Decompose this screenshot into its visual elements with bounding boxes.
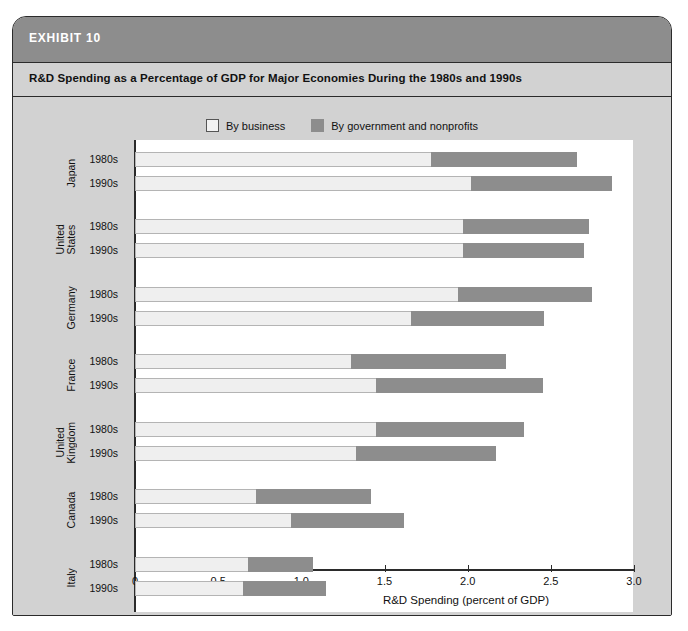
bar-segment-government (248, 557, 313, 572)
bar-row (135, 557, 313, 572)
bar-segment-government (256, 489, 371, 504)
bar-row (135, 311, 544, 326)
period-label: 1980s (89, 558, 118, 570)
x-axis-tick (634, 565, 635, 572)
bar-segment-business (135, 152, 431, 167)
bar-row (135, 422, 524, 437)
bar-row (135, 378, 543, 393)
country-label: Germany (66, 281, 77, 334)
bar-row (135, 243, 584, 258)
exhibit-header-bar: EXHIBIT 10 (13, 17, 671, 63)
bar-segment-government (471, 176, 612, 191)
x-axis-tick-label: 1.5 (377, 575, 392, 587)
bar-row (135, 489, 371, 504)
x-axis-tick (385, 565, 386, 572)
bar-segment-business (135, 176, 471, 191)
period-label: 1980s (89, 423, 118, 435)
bar-row (135, 219, 589, 234)
x-axis-tick-label: 3.0 (626, 575, 641, 587)
x-axis-tick (551, 565, 552, 572)
bar-row (135, 354, 506, 369)
legend-swatch-by-government-and-nonprofits (311, 119, 324, 132)
period-label: 1980s (89, 288, 118, 300)
bar-segment-government (356, 446, 496, 461)
bar-segment-business (135, 354, 351, 369)
period-label: 1990s (89, 582, 118, 594)
period-label: 1980s (89, 220, 118, 232)
exhibit-subtitle-bar: R&D Spending as a Percentage of GDP for … (13, 63, 671, 97)
bar-segment-business (135, 446, 356, 461)
bar-segment-government (376, 378, 542, 393)
period-label: 1990s (89, 447, 118, 459)
exhibit-page: EXHIBIT 10 R&D Spending as a Percentage … (0, 0, 688, 631)
bar-segment-business (135, 311, 411, 326)
bar-segment-business (135, 422, 376, 437)
period-label: 1980s (89, 153, 118, 165)
x-axis-tick-label: 2.5 (543, 575, 558, 587)
x-axis-tick-label: 2.0 (460, 575, 475, 587)
country-label: United Kingdom (55, 416, 77, 469)
bar-segment-government (376, 422, 524, 437)
bar-segment-business (135, 243, 463, 258)
bar-segment-government (463, 219, 589, 234)
bar-segment-government (351, 354, 506, 369)
country-label: Canada (66, 483, 77, 536)
exhibit-number-label: EXHIBIT 10 (29, 31, 101, 45)
plot-background (134, 140, 633, 612)
period-label: 1990s (89, 244, 118, 256)
bar-segment-government (411, 311, 544, 326)
legend-label-by-business: By business (226, 120, 285, 132)
bar-segment-business (135, 378, 376, 393)
chart-area: By business By government and nonprofits… (13, 97, 671, 616)
legend-item-by-government-and-nonprofits: By government and nonprofits (311, 119, 478, 132)
y-axis-line (134, 140, 136, 612)
period-label: 1990s (89, 177, 118, 189)
country-label: United States (55, 213, 77, 266)
x-axis-title-text: R&D Spending (percent of GDP) (383, 594, 549, 606)
bar-segment-government (458, 287, 593, 302)
bar-segment-government (291, 513, 404, 528)
bar-row (135, 176, 612, 191)
period-label: 1980s (89, 490, 118, 502)
bar-segment-business (135, 219, 463, 234)
period-label: 1990s (89, 312, 118, 324)
bar-segment-business (135, 489, 256, 504)
bar-row (135, 446, 496, 461)
bar-segment-business (135, 513, 291, 528)
x-axis-tick (468, 565, 469, 572)
bar-row (135, 513, 404, 528)
legend-label-by-government-and-nonprofits: By government and nonprofits (331, 120, 478, 132)
chart-legend: By business By government and nonprofits (13, 119, 671, 132)
legend-item-by-business: By business (206, 119, 285, 132)
legend-swatch-by-business (206, 119, 219, 132)
bar-row (135, 152, 577, 167)
bar-segment-government (431, 152, 577, 167)
country-label: France (66, 348, 77, 401)
country-label: Japan (66, 146, 77, 199)
period-label: 1980s (89, 355, 118, 367)
bar-segment-business (135, 557, 248, 572)
bar-segment-government (463, 243, 584, 258)
period-label: 1990s (89, 379, 118, 391)
exhibit-frame: EXHIBIT 10 R&D Spending as a Percentage … (12, 16, 672, 616)
category-labels: 1980s1990sJapan1980s1990sUnited States19… (13, 140, 126, 612)
x-axis-title: R&D Spending (percent of GDP) (13, 594, 671, 606)
period-label: 1990s (89, 514, 118, 526)
bar-segment-business (135, 287, 458, 302)
chart-title: R&D Spending as a Percentage of GDP for … (29, 72, 522, 84)
bar-row (135, 287, 592, 302)
